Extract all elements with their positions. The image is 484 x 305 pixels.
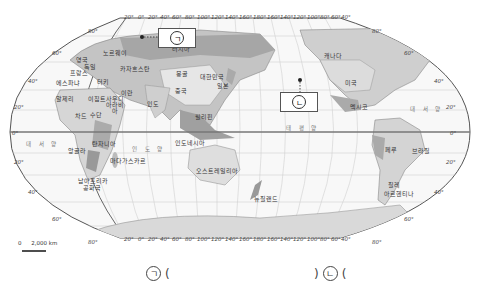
label-australia: 오스트레일리아 xyxy=(196,168,238,174)
latitude-right-eq: 0° xyxy=(450,130,456,136)
answer-a: ㄱ ( xyxy=(146,266,170,281)
ocean-atlantic-right: 대 서 양 xyxy=(410,105,444,113)
longitude-bottom-10: 180° xyxy=(253,236,266,242)
scale-bar-label: 0 2,000 km xyxy=(18,240,57,246)
longitude-top-0: 20° xyxy=(124,14,134,20)
label-japan: 일본 xyxy=(217,83,229,89)
label-chad: 차드 xyxy=(75,113,87,119)
marker-b-symbol: ㄴ xyxy=(292,95,306,109)
label-spain: 에스파냐 xyxy=(56,80,80,86)
longitude-top-9: 160° xyxy=(239,14,252,20)
latitude-left-s40: 40° xyxy=(28,189,38,195)
longitude-bottom-1: 0° xyxy=(138,236,144,242)
answer-a-open-paren: ( xyxy=(165,267,170,281)
latitude-right-s60: 60° xyxy=(404,216,414,222)
label-south-africa-line2: 공화국 xyxy=(83,185,101,191)
longitude-bottom-0: 20° xyxy=(124,236,134,242)
longitude-bottom-3: 40° xyxy=(160,236,170,242)
label-mexico: 멕시코 xyxy=(350,104,368,110)
label-norway: 노르웨이 xyxy=(103,50,127,56)
ocean-atlantic-left: 대 서 양 xyxy=(26,140,60,148)
latitude-right-n20: 20° xyxy=(446,104,456,110)
longitude-bottom-5: 80° xyxy=(185,236,195,242)
label-sudan: 수단 xyxy=(90,112,102,118)
longitude-top-11: 160° xyxy=(267,14,280,20)
label-chile: 칠레 xyxy=(388,182,400,188)
ocean-pacific: 태 평 양 xyxy=(286,124,320,132)
latitude-left-s60: 60° xyxy=(52,216,62,222)
longitude-top-14: 100° xyxy=(307,14,320,20)
marker-box-a: ㄱ xyxy=(158,28,196,48)
latitude-left-n40: 40° xyxy=(28,78,38,84)
label-kazakhstan: 카자흐스탄 xyxy=(120,66,150,72)
longitude-top-6: 100° xyxy=(197,14,210,20)
label-philippines: 필리핀 xyxy=(195,114,213,120)
latitude-right-s20: 20° xyxy=(446,159,456,165)
ocean-indian: 인 도 양 xyxy=(132,145,166,153)
label-canada: 캐나다 xyxy=(324,53,342,59)
latitude-right-s40: 40° xyxy=(434,189,444,195)
longitude-top-15: 80° xyxy=(320,14,330,20)
longitude-top-3: 40° xyxy=(160,14,170,20)
label-madagascar: 마다가스카르 xyxy=(110,158,146,164)
label-algeria: 알제리 xyxy=(56,96,74,102)
latitude-right-n80: 80° xyxy=(372,28,382,34)
latitude-right-s80: 80° xyxy=(372,239,382,245)
longitude-bottom-16: 60° xyxy=(331,236,341,242)
longitude-top-1: 0° xyxy=(138,14,144,20)
latitude-left-s20: 20° xyxy=(14,159,24,165)
label-peru: 페루 xyxy=(385,147,397,153)
longitude-bottom-7: 120° xyxy=(211,236,224,242)
label-new-zealand: 뉴질랜드 xyxy=(254,196,278,202)
marker-a-symbol: ㄱ xyxy=(170,31,184,45)
longitude-top-12: 140° xyxy=(280,14,293,20)
longitude-bottom-2: 20° xyxy=(148,236,158,242)
scale-zero: 0 xyxy=(18,240,22,246)
longitude-bottom-8: 140° xyxy=(225,236,238,242)
latitude-left-s80: 80° xyxy=(88,239,98,245)
answer-a-close-paren: ) xyxy=(314,267,319,281)
latitude-left-eq: 0° xyxy=(12,130,18,136)
longitude-top-10: 180° xyxy=(253,14,266,20)
label-tanzania: 탄자니아 xyxy=(92,141,116,147)
label-germany: 독일 xyxy=(84,64,96,70)
longitude-top-8: 140° xyxy=(225,14,238,20)
answer-a-symbol: ㄱ xyxy=(146,266,161,281)
label-turkey: 터키 xyxy=(97,79,109,85)
longitude-bottom-6: 100° xyxy=(197,236,210,242)
label-saudi-arabia: 사우디 아라비아 xyxy=(104,96,126,114)
longitude-top-13: 120° xyxy=(293,14,306,20)
longitude-top-4: 60° xyxy=(172,14,182,20)
longitude-bottom-9: 160° xyxy=(239,236,252,242)
longitude-bottom-17: 40° xyxy=(341,236,351,242)
answer-b-open-paren: ( xyxy=(342,267,347,281)
marker-box-b: ㄴ xyxy=(280,92,318,112)
longitude-bottom-13: 120° xyxy=(293,236,306,242)
longitude-top-17: 40° xyxy=(341,14,351,20)
longitude-bottom-12: 140° xyxy=(280,236,293,242)
latitude-left-n60: 60° xyxy=(52,50,62,56)
label-indonesia: 인도네시아 xyxy=(175,140,205,146)
label-india: 인도 xyxy=(147,101,159,107)
latitude-right-n40: 40° xyxy=(434,78,444,84)
longitude-bottom-15: 80° xyxy=(320,236,330,242)
latitude-left-n80: 80° xyxy=(88,28,98,34)
latitude-right-n60: 60° xyxy=(404,50,414,56)
scale-distance: 2,000 km xyxy=(31,240,57,246)
answer-b-symbol: ㄴ xyxy=(323,266,338,281)
label-mongolia: 몽골 xyxy=(176,71,188,77)
label-brazil: 브라질 xyxy=(412,148,430,154)
label-usa: 미국 xyxy=(345,80,357,86)
latitude-left-n20: 20° xyxy=(14,104,24,110)
label-angola: 앙골라 xyxy=(68,148,86,154)
longitude-top-5: 80° xyxy=(185,14,195,20)
answer-b: ) ㄴ ( xyxy=(314,266,346,281)
longitude-bottom-11: 160° xyxy=(267,236,280,242)
label-france: 프랑스 xyxy=(70,70,88,76)
longitude-top-2: 20° xyxy=(148,14,158,20)
label-korea: 대한민국 xyxy=(200,74,224,80)
label-china: 중국 xyxy=(175,88,187,94)
longitude-top-16: 60° xyxy=(331,14,341,20)
longitude-bottom-4: 60° xyxy=(172,236,182,242)
label-argentina: 아르헨티나 xyxy=(384,191,414,197)
